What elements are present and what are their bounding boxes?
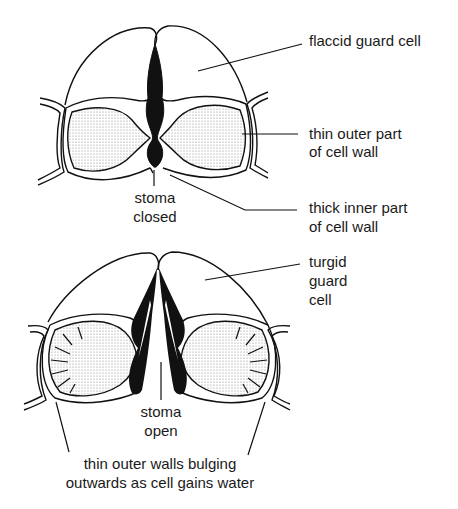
turgid-guard-cell-label-line3: cell [309, 291, 332, 309]
thick-inner-wall-label-line1: thick inner part [309, 199, 407, 217]
turgid-guard-cell-label-line2: guard [309, 272, 347, 290]
thin-outer-wall-label-line1: thin outer part [309, 125, 402, 143]
right-guard-cell-cytoplasm [160, 105, 245, 169]
stoma-open-label-line1: stoma [126, 403, 196, 421]
right-guard-cell-outline [155, 26, 247, 102]
right-turgid-cytoplasm [181, 321, 269, 396]
stoma-closed-label-line1: stoma [120, 189, 190, 207]
stoma-closed-label-line2: closed [120, 208, 190, 226]
stoma-open-label-line2: open [126, 422, 196, 440]
thin-outer-wall-label-line2: of cell wall [309, 143, 378, 161]
bulging-walls-caption-line2: outwards as cell gains water [30, 474, 290, 492]
left-guard-cell-cytoplasm [68, 108, 150, 171]
stomata-diagram [0, 0, 458, 509]
bulging-walls-caption-line1: thin outer walls bulging [30, 455, 290, 473]
right-open-thick-inner-wall [159, 268, 187, 394]
closed-thick-inner-wall [146, 44, 163, 167]
left-open-thick-inner-wall [129, 268, 157, 394]
left-guard-cell-outline [65, 28, 157, 105]
thick-inner-wall-label-line2: of cell wall [309, 218, 378, 236]
turgid-guard-cell-label-line1: turgid [309, 253, 347, 271]
flaccid-guard-cell-label: flaccid guard cell [309, 32, 421, 50]
